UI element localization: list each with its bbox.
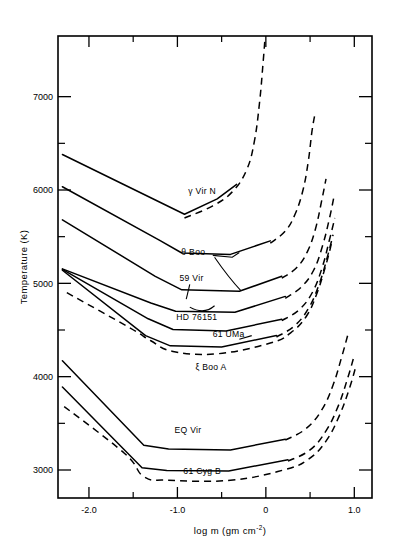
x-tick-label: 1.0 [348,505,361,515]
y-tick-label: 5000 [33,279,53,289]
y-tick-label: 6000 [33,185,53,195]
x-axis-title-main: log m (gm cm [194,525,256,536]
x-tick-label: 0 [263,505,268,515]
y-tick-label: 4000 [33,372,53,382]
x-axis-title-tail: ) [263,525,267,536]
x-axis-title: log m (gm cm-2) [194,524,266,536]
curve-label-theta-boo: θ Boo [181,247,205,257]
curve-label-xi-boo-a: ξ Boo A [195,362,226,372]
curve-label-eq-vir: EQ Vir [175,425,202,435]
x-tick-label: -2.0 [81,505,97,515]
y-tick-label: 7000 [33,92,53,102]
curve-label-gamma-vir-n: γ Vir N [188,186,216,196]
y-tick-label: 3000 [33,465,53,475]
curve-label-59-vir: 59 Vir [180,273,204,283]
y-axis-title: Temperature (K) [18,230,29,305]
curve-label-61-uma: 61 UMa [213,329,245,339]
temperature-vs-log-mass-chart: -2.0-1.001.0 70006000500040003000 γ Vir … [0,0,417,549]
curve-label-hd-76151: HD 76151 [176,312,217,322]
curve-label-61-cyg-b: 61 Cyg B [183,466,221,476]
figure-container: -2.0-1.001.0 70006000500040003000 γ Vir … [0,0,417,549]
x-tick-label: -1.0 [170,505,186,515]
